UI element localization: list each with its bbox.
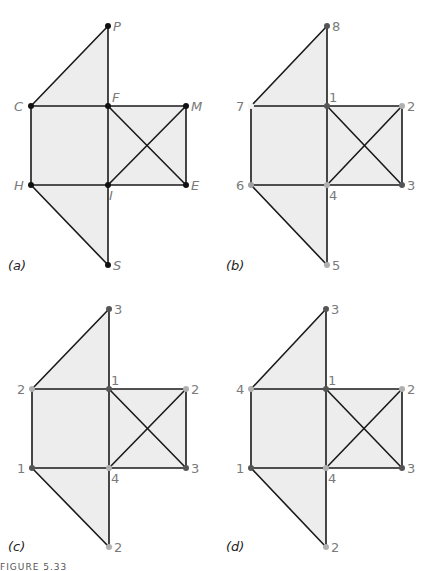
vertex-label: 4 xyxy=(236,382,244,397)
vertex-dot xyxy=(183,182,189,188)
vertex-label: 2 xyxy=(114,540,122,555)
vertex-dot xyxy=(105,103,111,109)
panel-label: (b) xyxy=(226,258,244,273)
vertex-label: 1 xyxy=(17,461,25,476)
vertex-dot xyxy=(323,544,329,550)
vertex-label-E: E xyxy=(191,178,200,193)
vertex-dot xyxy=(399,465,405,471)
vertex-label-C: C xyxy=(14,99,24,114)
vertex-label: 2 xyxy=(407,382,415,397)
panel-label: (c) xyxy=(8,539,25,554)
panel-d: 3 4 1 2 1 4 3 2 (d) xyxy=(226,302,415,555)
vertex-label-P: P xyxy=(113,19,121,34)
panel-b: 8 7 1 2 6 4 3 5 (b) xyxy=(226,19,415,273)
vertex-label-S: S xyxy=(113,258,121,273)
vertex-label: 2 xyxy=(407,99,415,114)
vertex-label-F: F xyxy=(112,90,120,105)
vertex-dot xyxy=(183,465,189,471)
vertex-label: 4 xyxy=(328,471,336,486)
vertex-label: 1 xyxy=(236,461,244,476)
vertex-dot xyxy=(324,262,330,268)
vertex-dot xyxy=(183,386,189,392)
vertex-label-M: M xyxy=(191,99,202,114)
vertex-label: 5 xyxy=(332,258,340,273)
graph-coloring-figure: P C F M H I E S (a) xyxy=(0,0,432,571)
vertex-label-I: I xyxy=(109,188,113,203)
vertex-dot xyxy=(323,306,329,312)
vertex-label: 3 xyxy=(407,178,415,193)
vertex-label: 1 xyxy=(328,373,336,388)
vertex-dot xyxy=(106,544,112,550)
vertex-label: 6 xyxy=(236,178,244,193)
vertex-dot xyxy=(399,386,405,392)
vertex-dot xyxy=(106,306,112,312)
vertex-label: 3 xyxy=(191,461,199,476)
vertex-label: 4 xyxy=(111,471,119,486)
figure-caption: FIGURE 5.33 xyxy=(0,562,67,571)
vertex-label: 4 xyxy=(329,188,337,203)
vertex-dot xyxy=(324,23,330,29)
vertex-label: 2 xyxy=(331,540,339,555)
vertex-dot xyxy=(105,23,111,29)
vertex-dot xyxy=(248,386,254,392)
vertex-dot xyxy=(248,182,254,188)
vertex-label: 2 xyxy=(191,382,199,397)
vertex-label-H: H xyxy=(14,178,24,193)
vertex-dot xyxy=(105,262,111,268)
vertex-label: 3 xyxy=(407,461,415,476)
vertex-dot xyxy=(29,386,35,392)
vertex-label: 3 xyxy=(114,302,122,317)
vertex-label: 7 xyxy=(236,99,244,114)
vertex-dot xyxy=(399,103,405,109)
vertex-dot xyxy=(29,465,35,471)
panel-label: (d) xyxy=(226,539,244,554)
panel-c: 3 2 1 2 1 4 3 2 (c) xyxy=(8,302,199,555)
vertex-label: 1 xyxy=(329,90,337,105)
vertex-dot xyxy=(248,465,254,471)
vertex-dot xyxy=(28,103,34,109)
vertex-label: 2 xyxy=(17,382,25,397)
vertex-dot xyxy=(399,182,405,188)
vertex-label: 3 xyxy=(331,302,339,317)
vertex-dot xyxy=(183,103,189,109)
panel-label: (a) xyxy=(8,258,26,273)
vertex-dot xyxy=(28,182,34,188)
vertex-dot xyxy=(248,103,254,109)
panel-a: P C F M H I E S (a) xyxy=(8,19,202,273)
vertex-label: 8 xyxy=(332,19,340,34)
vertex-label: 1 xyxy=(111,373,119,388)
